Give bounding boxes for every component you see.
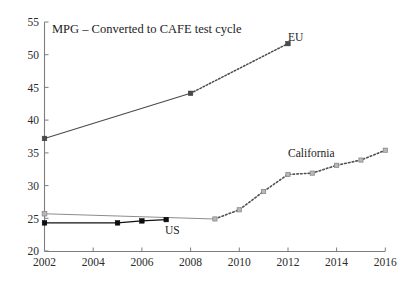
data-point-marker [237,208,241,212]
data-point-marker [42,221,47,226]
x-tick-label: 2016 [374,256,397,268]
y-tick-label: 35 [28,147,40,159]
eu-dotted-segment [191,44,288,94]
data-point-marker [213,217,217,221]
series-eu [42,41,290,140]
data-point-marker [261,189,265,193]
x-axis: 2002 2004 2006 2008 2010 2012 2014 2016 [33,248,397,269]
data-point-marker [140,219,145,224]
series-label-eu: EU [288,31,304,43]
eu-solid-segment [45,93,191,138]
y-tick-label: 40 [28,114,40,126]
x-axis-ticks [45,248,386,252]
x-tick-label: 2008 [179,256,202,268]
chart-container: 20 25 30 35 40 45 50 55 [0,0,406,287]
series-us [42,217,168,225]
data-point-marker [42,211,47,216]
california-solid-segment [45,214,215,219]
data-point-marker [42,136,47,141]
california-markers [42,148,387,221]
data-point-marker [335,163,339,167]
data-point-marker [188,91,193,96]
mpg-cafe-line-chart: 20 25 30 35 40 45 50 55 [0,0,406,287]
data-point-marker [383,148,387,152]
us-markers [42,217,168,225]
y-tick-label: 55 [28,16,40,28]
data-point-marker [286,172,290,176]
data-point-marker [310,171,314,175]
x-tick-label: 2012 [277,256,300,268]
x-tick-label: 2002 [33,256,56,268]
chart-title: MPG – Converted to CAFE test cycle [52,22,242,36]
y-tick-label: 45 [28,82,40,94]
series-california [42,148,387,221]
y-tick-label: 50 [28,49,40,61]
eu-markers [42,41,290,140]
data-point-marker [359,158,363,162]
y-tick-label: 30 [28,180,40,192]
x-tick-label: 2004 [82,256,105,268]
x-tick-label: 2006 [130,256,153,268]
data-point-marker [164,217,169,222]
x-axis-tick-labels: 2002 2004 2006 2008 2010 2012 2014 2016 [33,256,397,268]
series-annotations: EU US California [165,31,335,236]
x-tick-label: 2014 [325,256,348,268]
data-point-marker [115,221,120,226]
x-tick-label: 2010 [228,256,251,268]
us-line [45,220,167,223]
y-axis-tick-labels: 20 25 30 35 40 45 50 55 [28,16,40,257]
series-label-california: California [288,147,335,159]
series-label-us: US [165,224,180,236]
y-tick-label: 25 [28,213,40,225]
